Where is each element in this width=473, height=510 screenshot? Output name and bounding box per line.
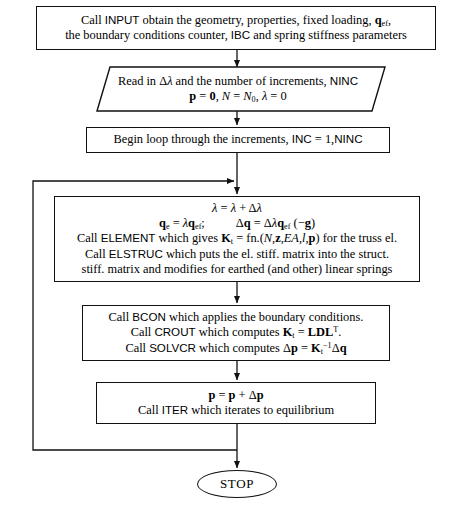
node-lambda-line-2: qe = λqef; Δq = Δλqef (−g) (159, 216, 315, 232)
node-solve-line-1: Call BCON which applies the boundary con… (109, 310, 364, 325)
node-input-line-2: the boundary conditions counter, IBC and… (65, 28, 407, 43)
flowchart-canvas: Call INPUT obtain the geometry, properti… (0, 0, 473, 510)
node-input-line-1: Call INPUT obtain the geometry, properti… (81, 13, 391, 29)
node-update-line-1: p = p + Δp (208, 388, 263, 403)
node-lambda-line-3: Call ELEMENT which gives Kt = fn.(N,z,EA… (77, 231, 397, 247)
node-solve-line-2: Call CROUT which computes Kt = LDLT. (131, 325, 342, 341)
node-stop-label: STOP (220, 476, 254, 492)
node-lambda-element-process: λ = λ + Δλ qe = λqef; Δq = Δλqef (−g) Ca… (54, 196, 420, 282)
node-update-process: p = p + Δp Call ITER which iterates to e… (96, 382, 376, 424)
node-read-line-1: Read in Δλ and the number of increments,… (118, 74, 358, 89)
node-read-line-2: p = 0, N = N0, λ = 0 (189, 89, 286, 105)
node-begin-loop: Begin loop through the increments, INC =… (86, 127, 390, 153)
node-lambda-line-1: λ = λ + Δλ (212, 201, 262, 216)
node-stop-terminator: STOP (197, 470, 277, 498)
node-lambda-line-5: stiff. matrix and modifies for earthed (… (82, 262, 393, 277)
node-input-process: Call INPUT obtain the geometry, properti… (36, 6, 436, 50)
node-solve-line-3: Call SOLVCR which computes Δp = Kt−1Δq (125, 341, 346, 357)
node-lambda-line-4: Call ELSTRUC which puts the el. stiff. m… (85, 247, 389, 262)
node-update-line-2: Call ITER which iterates to equilibrium (138, 403, 334, 418)
node-solve-process: Call BCON which applies the boundary con… (82, 305, 390, 361)
node-read-input: Read in Δλ and the number of increments,… (104, 69, 372, 109)
node-begin-loop-line-1: Begin loop through the increments, INC =… (113, 132, 362, 147)
